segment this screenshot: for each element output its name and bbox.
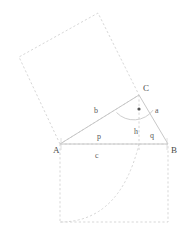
- right-angle-arc: [117, 110, 154, 120]
- side-label-c: c: [95, 151, 99, 160]
- side-label-p: p: [97, 132, 101, 141]
- square-on-leg-b-shape: [19, 13, 139, 144]
- vertex-label-B: B: [171, 145, 177, 155]
- vertex-label-A: A: [53, 145, 60, 155]
- side-label-q: q: [150, 131, 154, 140]
- square-on-side-c-shape: [60, 144, 168, 222]
- vertex-label-C: C: [143, 83, 149, 93]
- quarter-arc-shape: [60, 144, 139, 222]
- side-label-b: b: [94, 106, 98, 115]
- geometry-diagram-canvas: A B C a b c h p q: [0, 0, 188, 230]
- right-angle-dot-icon: [137, 107, 140, 110]
- side-label-h: h: [134, 127, 138, 136]
- side-label-a: a: [155, 106, 159, 115]
- geometry-svg: A B C a b c h p q: [0, 0, 188, 230]
